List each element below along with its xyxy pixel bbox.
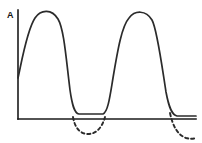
y-axis-label: A [7,11,14,20]
plot-canvas [0,0,202,143]
suppressed-negative-half-cycle-2-curve [170,113,196,139]
rectified-signal-curve [18,11,196,116]
waveform-figure: A [0,0,202,143]
